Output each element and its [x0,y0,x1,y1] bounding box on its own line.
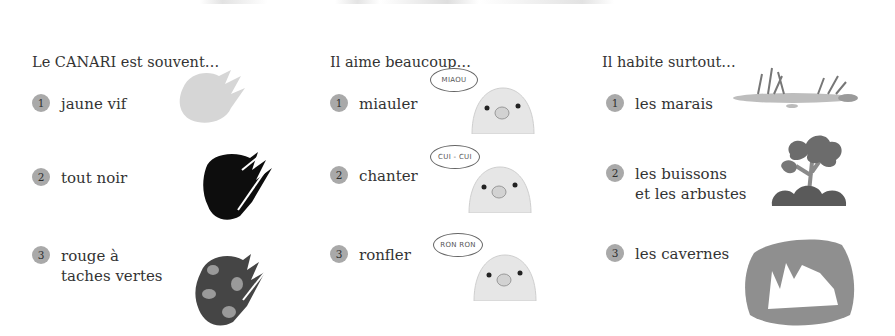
number-badge: 1 [330,94,348,112]
number-badge: 3 [606,244,624,262]
option-1[interactable]: 1 les marais [606,94,713,114]
canary-head-icon [470,86,536,134]
option-3[interactable]: 3 ronfler [330,245,411,265]
canary-head-icon [467,165,533,213]
option-label: tout noir [61,168,127,188]
option-1[interactable]: 1 miauler [330,94,417,114]
option-label: les cavernes [635,244,729,264]
marsh-icon [728,62,868,112]
canary-head-icon [472,253,538,301]
option-label: les marais [635,94,713,114]
option-2[interactable]: 2 chanter [330,166,418,186]
option-2[interactable]: 2 tout noir [32,168,127,188]
number-badge: 2 [330,166,348,184]
bushes-icon [768,132,853,214]
option-label: chanter [359,166,418,186]
column-heading: Il habite surtout… [602,54,736,70]
column-habitat: Il habite surtout… 1 les marais 2 les bu… [580,0,895,336]
red-green-spotted-swatch-icon [193,250,273,330]
number-badge: 1 [606,94,624,112]
column-activity: Il aime beaucoup… 1 miauler MIAOU 2 chan… [300,0,580,336]
option-label: miauler [359,94,417,114]
number-badge: 1 [32,94,50,112]
number-badge: 3 [330,245,348,263]
number-badge: 3 [32,246,50,264]
black-swatch-icon [200,150,280,225]
light-gray-swatch-icon [175,68,250,128]
option-label: les buissons et les arbustes [635,164,747,204]
option-1[interactable]: 1 jaune vif [32,94,126,114]
option-3[interactable]: 3 rouge à taches vertes [32,246,163,286]
option-2[interactable]: 2 les buissons et les arbustes [606,164,747,204]
option-3[interactable]: 3 les cavernes [606,244,729,264]
option-label: jaune vif [61,94,126,114]
option-label: ronfler [359,245,411,265]
column-color: Le CANARI est souvent… 1 jaune vif 2 tou… [0,0,300,336]
option-label: rouge à taches vertes [61,246,163,286]
number-badge: 2 [32,168,50,186]
number-badge: 2 [606,164,624,182]
cave-icon [742,233,862,333]
